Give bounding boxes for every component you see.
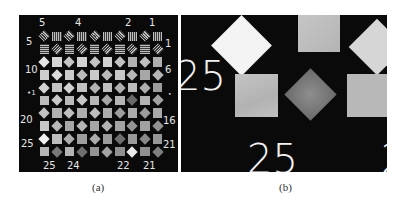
target-patch [151,81,164,94]
target-patch [101,120,114,133]
dark-diamond-patch [284,68,336,120]
square-patch [40,70,50,80]
left-label-15: •1 [27,90,36,97]
diamond-patch [89,82,100,93]
target-patch [51,132,64,145]
right-label-1: 1 [165,39,171,49]
diamond-patch [64,108,75,119]
target-patch [126,107,139,120]
target-patch [76,81,89,94]
target-patch [63,120,76,133]
diamond-patch [76,120,87,131]
square-patch [90,70,100,80]
target-patch [101,81,114,94]
target-patch [76,145,89,158]
target-patch [88,81,101,94]
diamond-patch [102,120,113,131]
bright-diamond-patch-partial [349,19,387,76]
target-patch [88,145,101,158]
target-patch [38,43,51,56]
target-patch [101,145,114,158]
target-patch [88,30,101,43]
target-patch [114,107,127,120]
diamond-patch [152,146,163,157]
target-patch [63,68,76,81]
target-patch [139,43,152,56]
diamond-patch [152,95,163,106]
diamond-patch [152,69,163,80]
right-label-21: 21 [163,140,176,150]
target-patch [63,56,76,69]
diamond-patch [64,82,75,93]
diamond-patch [114,31,125,42]
square-patch [153,57,163,67]
target-patch [38,56,51,69]
large-label-partial: 2 [381,139,387,172]
diamond-patch [152,120,163,131]
target-patch [139,30,152,43]
target-patch [126,56,139,69]
target-patch [51,145,64,158]
target-patch [88,120,101,133]
square-patch [65,147,75,157]
target-patch [76,68,89,81]
square-patch [65,121,75,131]
target-patch [101,132,114,145]
target-patch [38,132,51,145]
target-patch [51,30,64,43]
square-patch [115,44,125,54]
diamond-patch [89,56,100,67]
square-patch [40,96,50,106]
square-patch [65,70,75,80]
diamond-patch [39,108,50,119]
target-patch [88,43,101,56]
diamond-patch [127,146,138,157]
diamond-patch [39,133,50,144]
target-patch [126,94,139,107]
diamond-patch [139,133,150,144]
diamond-patch [64,31,75,42]
target-patch [76,94,89,107]
target-patch [101,94,114,107]
square-patch [77,134,87,144]
target-patch [139,107,152,120]
target-patch [76,43,89,56]
diamond-patch [89,31,100,42]
square-patch [140,70,150,80]
target-patch [151,43,164,56]
diamond-patch [102,69,113,80]
square-patch [115,147,125,157]
target-patch [51,68,64,81]
target-patch [114,132,127,145]
caption-a: (a) [92,181,104,193]
target-patch [139,81,152,94]
target-patch [76,30,89,43]
target-patch [76,107,89,120]
square-patch [90,121,100,131]
square-patch [115,121,125,131]
square-patch [115,96,125,106]
target-patch [101,56,114,69]
target-patch [38,145,51,158]
diamond-patch [114,133,125,144]
target-patch [114,81,127,94]
diamond-patch [127,95,138,106]
diamond-patch [127,120,138,131]
bottom-label-22: 22 [117,161,130,171]
square-patch [140,121,150,131]
diamond-patch [127,44,138,55]
target-patch [151,30,164,43]
square-patch [52,32,62,42]
square-patch [77,83,87,93]
target-patch [126,145,139,158]
target-patch [126,81,139,94]
target-patch [63,43,76,56]
square-patch [40,44,50,54]
square-patch [65,96,75,106]
square-patch [153,134,163,144]
target-patch [76,56,89,69]
target-patch [139,68,152,81]
square-patch [128,83,138,93]
diamond-patch [114,82,125,93]
target-patch [63,107,76,120]
